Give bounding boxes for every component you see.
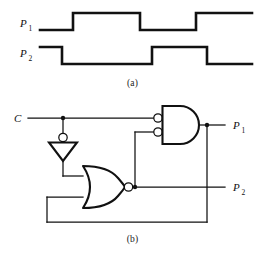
- schematic-svg: C P 1 P 2: [0, 100, 265, 240]
- waveform-label-p2-subscript: 2: [29, 54, 33, 63]
- and-input2-bubble-icon: [154, 128, 162, 136]
- and-input1-bubble-icon: [154, 114, 162, 122]
- caption-a: (a): [0, 78, 265, 88]
- inverter-triangle-icon: [49, 143, 77, 162]
- input-label-c: C: [14, 112, 22, 124]
- junction-dot-clock-tap: [61, 116, 65, 120]
- waveform-label-p1-base: P: [19, 17, 27, 29]
- figure-container: P 1 P 2 (a): [0, 0, 265, 257]
- waveform-p1: [40, 13, 252, 30]
- output-label-p2-base: P: [232, 181, 240, 193]
- waveform-label-p2: P 2: [19, 47, 33, 63]
- junction-dot-p1-feedback: [205, 123, 209, 127]
- waveform-p2: [40, 47, 252, 64]
- output-label-p2: P 2: [232, 181, 246, 197]
- and-gate: [154, 106, 199, 144]
- output-label-p2-subscript: 2: [242, 188, 246, 197]
- timing-diagram-svg: P 1 P 2: [0, 0, 265, 78]
- and-gate-body-icon: [163, 106, 200, 144]
- output-label-p1: P 1: [232, 119, 246, 135]
- junction-dot-nor-output: [133, 185, 137, 189]
- waveform-label-p1-subscript: 1: [29, 24, 33, 33]
- inverter-gate: [49, 133, 77, 161]
- output-label-p1-subscript: 1: [242, 126, 246, 135]
- caption-b: (b): [0, 234, 265, 244]
- nor-gate: [83, 166, 133, 208]
- nor-gate-body-icon: [83, 166, 125, 208]
- inverter-input-bubble-icon: [59, 133, 67, 141]
- waveform-label-p1: P 1: [19, 17, 33, 33]
- waveform-label-p2-base: P: [19, 47, 27, 59]
- nor-output-bubble-icon: [124, 183, 132, 191]
- output-label-p1-base: P: [232, 119, 240, 131]
